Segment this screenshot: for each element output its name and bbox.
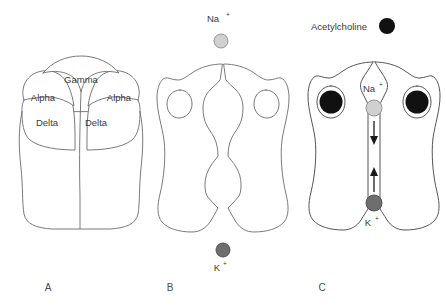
panel-b-left-half	[157, 64, 222, 232]
subunit-label-alpha-left: Alpha	[31, 92, 56, 103]
panel-c-potassium-charge: +	[375, 215, 379, 222]
panel-b-sodium-ion	[214, 34, 228, 48]
subunit-label-delta-left: Delta	[36, 117, 59, 128]
panel-a: Gamma Alpha Alpha Delta Delta A	[19, 56, 143, 293]
panel-c-sodium-ion	[366, 100, 382, 116]
panel-label-a: A	[45, 282, 52, 293]
panel-b-sodium-label: Na	[207, 13, 220, 24]
potassium-flow-arrow	[370, 167, 378, 192]
subunit-label-alpha-right: Alpha	[107, 92, 132, 103]
figure-canvas: Gamma Alpha Alpha Delta Delta A Na + K +…	[0, 0, 446, 307]
panel-b-right-half	[224, 64, 289, 232]
panel-c-right-half	[375, 62, 440, 230]
panel-b-sodium-charge: +	[226, 11, 230, 18]
panel-label-b: B	[167, 282, 174, 293]
panel-c-potassium-ion	[366, 195, 382, 211]
panel-b-potassium-label: K	[214, 262, 221, 273]
panel-c-sodium-charge: +	[379, 81, 383, 88]
panel-label-c: C	[318, 282, 325, 293]
sodium-flow-arrow	[370, 121, 378, 145]
acetylcholine-bound-right	[406, 91, 429, 114]
acetylcholine-legend-marker	[379, 18, 395, 34]
panel-b: Na + K + B	[157, 11, 289, 293]
panel-c-potassium-label: K	[365, 217, 372, 228]
figure-root: Gamma Alpha Alpha Delta Delta A Na + K +…	[0, 0, 446, 307]
acetylcholine-legend-label: Acetylcholine	[311, 21, 367, 32]
subunit-label-gamma: Gamma	[64, 74, 99, 85]
panel-c: Acetylcholine Na + K +	[308, 18, 440, 293]
acetylcholine-bound-left	[320, 91, 343, 114]
panel-b-potassium-charge: +	[223, 260, 227, 267]
subunit-label-delta-right: Delta	[85, 117, 108, 128]
panel-b-potassium-ion	[216, 243, 230, 257]
panel-c-sodium-label: Na	[363, 83, 376, 94]
